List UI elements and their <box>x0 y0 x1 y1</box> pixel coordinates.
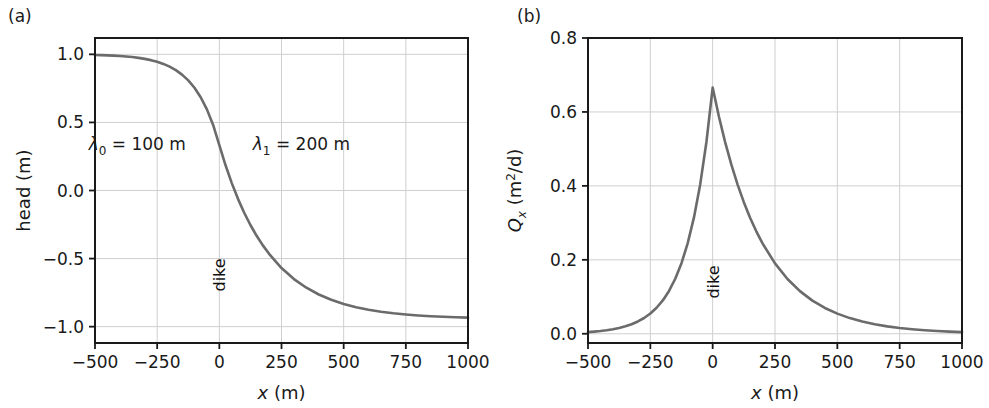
x-tick-label: −250 <box>627 352 674 372</box>
x-tick-label: −250 <box>134 352 181 372</box>
discharge-panel: (b) −500−250025050075010000.80.60.40.20.… <box>495 0 989 408</box>
x-tick-label: 0 <box>707 352 718 372</box>
discharge-plot: −500−250025050075010000.80.60.40.20.0x (… <box>495 0 989 408</box>
lambda0-annotation: λ0 = 100 m <box>88 134 186 158</box>
y-axis-title: head (m) <box>13 149 34 231</box>
x-axis-title: x (m) <box>257 382 306 403</box>
head-plot: −500−250025050075010001.00.50.0−0.5−1.0x… <box>0 0 495 408</box>
x-tick-label: 250 <box>759 352 791 372</box>
x-tick-label: 250 <box>265 352 297 372</box>
y-tick-label: −0.5 <box>43 249 84 269</box>
head-panel: (a) −500−250025050075010001.00.50.0−0.5−… <box>0 0 495 408</box>
y-tick-label: 0.4 <box>550 176 577 196</box>
y-tick-label: 0.8 <box>550 28 577 48</box>
x-tick-label: 0 <box>214 352 225 372</box>
y-tick-label: 1.0 <box>57 44 84 64</box>
x-tick-label: −500 <box>72 352 119 372</box>
y-tick-label: −1.0 <box>43 317 84 337</box>
x-axis-title: x (m) <box>750 382 799 403</box>
x-tick-label: 500 <box>327 352 359 372</box>
x-tick-label: 1000 <box>940 352 983 372</box>
figure-container: (a) −500−250025050075010001.00.50.0−0.5−… <box>0 0 989 408</box>
y-tick-label: 0.0 <box>550 324 577 344</box>
y-tick-label: 0.5 <box>57 112 84 132</box>
tick-group: −500−250025050075010000.80.60.40.20.0 <box>550 28 984 372</box>
dike-label: dike <box>704 265 723 298</box>
y-tick-label: 0.6 <box>550 102 577 122</box>
x-tick-label: 500 <box>821 352 853 372</box>
dike-label: dike <box>210 258 229 291</box>
y-tick-label: 0.2 <box>550 250 577 270</box>
x-tick-label: −500 <box>565 352 612 372</box>
x-tick-label: 750 <box>883 352 915 372</box>
x-tick-label: 750 <box>390 352 422 372</box>
x-tick-label: 1000 <box>446 352 489 372</box>
tick-group: −500−250025050075010001.00.50.0−0.5−1.0 <box>43 44 490 372</box>
gridlines <box>95 38 468 343</box>
gridlines <box>588 38 962 343</box>
lambda1-annotation: λ1 = 200 m <box>252 134 350 158</box>
y-tick-label: 0.0 <box>57 181 84 201</box>
y-axis-title: Qx (m2/d) <box>504 149 529 233</box>
